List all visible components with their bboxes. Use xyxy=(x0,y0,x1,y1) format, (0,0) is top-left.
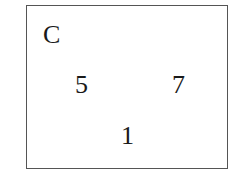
number-left: 5 xyxy=(75,72,88,98)
number-bottom: 1 xyxy=(121,123,134,149)
number-right: 7 xyxy=(172,72,185,98)
diagram-label: C xyxy=(43,22,60,48)
